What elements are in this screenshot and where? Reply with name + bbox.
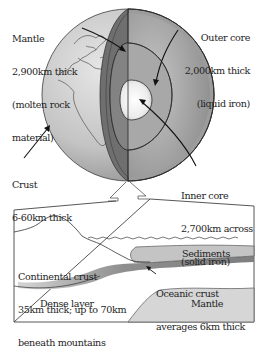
mantle-label-material-1: (molten rock — [12, 99, 77, 110]
callout-lines — [108, 182, 150, 201]
mantle-label-thickness: 2,900km thick — [12, 66, 77, 77]
continental-crust-label-name: Continental crust — [18, 271, 126, 282]
inner-core-label-size: 2,700km across — [181, 223, 253, 234]
crust-label: Crust 6-60km thick — [12, 157, 72, 234]
inner-core-label-name: Inner core — [181, 190, 253, 201]
mantle-label-material-2: material) — [12, 132, 77, 143]
outer-core-label-name: Outer core — [185, 32, 250, 43]
outer-core-label-thickness: 2,000km thick — [185, 65, 250, 76]
outer-core-label: Outer core 2,000km thick (liquid iron) — [185, 10, 250, 120]
crust-label-thickness: 6-60km thick — [12, 212, 72, 223]
sediments-label: Sediments — [176, 248, 236, 259]
mantle-label: Mantle 2,900km thick (molten rock materi… — [12, 11, 77, 154]
inner-core-label: Inner core 2,700km across (solid iron) — [181, 168, 253, 278]
oceanic-crust-label-thickness: averages 6km thick — [156, 321, 245, 332]
dense-layer-label: Dense layer — [40, 298, 94, 309]
mantle-label-name: Mantle — [12, 33, 77, 44]
outer-core-label-material: (liquid iron) — [185, 98, 250, 109]
continental-crust-label-mountains: beneath mountains — [18, 337, 126, 348]
mantle-section-label: Mantle — [180, 298, 234, 309]
crust-label-name: Crust — [12, 179, 72, 190]
